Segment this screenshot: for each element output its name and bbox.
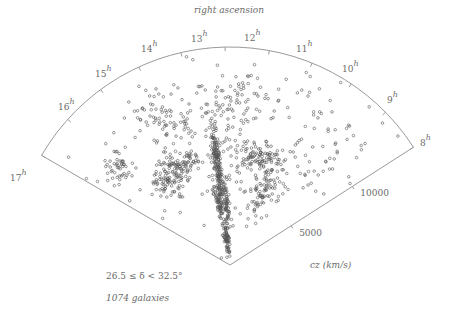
galaxy-point: [308, 91, 311, 94]
galaxy-point: [282, 182, 285, 185]
galaxy-point: [264, 174, 267, 177]
distance-tick: [352, 186, 354, 189]
galaxy-point: [244, 101, 247, 104]
galaxy-point: [138, 85, 141, 88]
galaxy-point: [201, 115, 204, 118]
galaxy-point: [133, 110, 136, 113]
galaxy-point: [244, 163, 247, 166]
galaxy-point: [229, 243, 232, 246]
galaxy-point: [186, 112, 189, 115]
galaxy-point: [280, 163, 283, 166]
galaxy-point: [160, 195, 163, 198]
galaxy-point: [314, 190, 317, 193]
galaxy-point: [294, 156, 297, 159]
galaxy-point: [216, 109, 219, 112]
galaxy-point: [165, 115, 168, 118]
galaxy-point: [134, 136, 137, 139]
galaxy-point: [220, 114, 223, 117]
galaxy-point: [242, 84, 245, 87]
galaxy-point: [245, 225, 248, 228]
galaxy-point: [255, 117, 258, 120]
galaxy-point: [247, 204, 250, 207]
galaxy-point: [271, 153, 274, 156]
galaxy-point: [273, 181, 276, 184]
galaxy-point: [240, 180, 243, 183]
galaxy-point: [206, 190, 209, 193]
galaxy-point: [85, 177, 88, 180]
galaxy-point: [159, 175, 162, 178]
galaxy-point: [149, 115, 152, 118]
galaxy-point: [201, 193, 204, 196]
galaxy-point: [245, 118, 248, 121]
galaxy-point: [124, 146, 127, 149]
galaxy-point: [153, 139, 156, 142]
galaxy-point: [119, 178, 122, 181]
galaxy-point: [254, 146, 257, 149]
galaxy-point: [210, 161, 213, 164]
galaxy-point: [304, 154, 307, 157]
galaxy-point: [230, 218, 233, 221]
galaxy-point: [163, 209, 166, 212]
galaxy-point: [239, 188, 242, 191]
galaxy-point: [318, 111, 321, 114]
galaxy-point: [287, 188, 290, 191]
galaxy-point: [318, 88, 321, 91]
galaxy-point: [348, 176, 351, 179]
galaxy-point: [192, 58, 195, 61]
galaxy-point: [339, 81, 342, 84]
hour-tick: [349, 84, 351, 87]
galaxy-point: [170, 194, 173, 197]
galaxy-point: [163, 120, 166, 123]
galaxy-point: [247, 120, 250, 123]
galaxy-point: [246, 140, 249, 143]
galaxy-point: [227, 148, 230, 151]
galaxy-point: [190, 130, 193, 133]
galaxy-point: [230, 155, 233, 158]
galaxy-point: [209, 119, 212, 122]
hour-label-8h: 8h: [420, 135, 431, 148]
hour-label-17h: 17h: [10, 170, 27, 183]
galaxy-point: [228, 193, 231, 196]
galaxy-point: [276, 150, 279, 153]
galaxy-point: [270, 161, 273, 164]
galaxy-point: [243, 141, 246, 144]
galaxy-point: [234, 148, 237, 151]
galaxy-point: [334, 129, 337, 132]
galaxy-point: [226, 256, 229, 259]
galaxy-point: [172, 142, 175, 145]
galaxy-point: [153, 95, 156, 98]
galaxy-point: [345, 127, 348, 130]
galaxy-point: [317, 174, 320, 177]
galaxy-point: [210, 123, 213, 126]
galaxy-point: [169, 115, 172, 118]
galaxy-point: [187, 127, 190, 130]
galaxy-point: [233, 116, 236, 119]
galaxy-point: [368, 106, 371, 109]
galaxy-point: [203, 224, 206, 227]
galaxy-point: [253, 63, 256, 66]
hour-tick: [410, 147, 413, 149]
galaxy-point: [235, 157, 238, 160]
galaxy-point: [220, 257, 223, 260]
galaxy-point: [229, 202, 232, 205]
galaxy-point: [240, 149, 243, 152]
galaxy-point: [250, 147, 253, 150]
galaxy-point: [263, 184, 266, 187]
galaxy-point: [182, 116, 185, 119]
galaxy-point: [245, 109, 248, 112]
galaxy-point: [150, 108, 153, 111]
galaxy-point: [96, 180, 99, 183]
galaxy-point: [197, 167, 200, 170]
galaxy-point: [225, 137, 228, 140]
galaxy-point: [313, 127, 316, 130]
galaxy-point: [161, 106, 164, 109]
galaxy-point: [179, 152, 182, 155]
galaxy-point: [307, 170, 310, 173]
galaxy-point: [204, 89, 207, 92]
galaxy-point: [296, 92, 299, 95]
galaxy-point: [218, 144, 221, 147]
galaxy-point: [267, 174, 270, 177]
distance-tick-label: 5000: [299, 228, 322, 238]
galaxy-point: [171, 182, 174, 185]
galaxy-point: [170, 93, 173, 96]
